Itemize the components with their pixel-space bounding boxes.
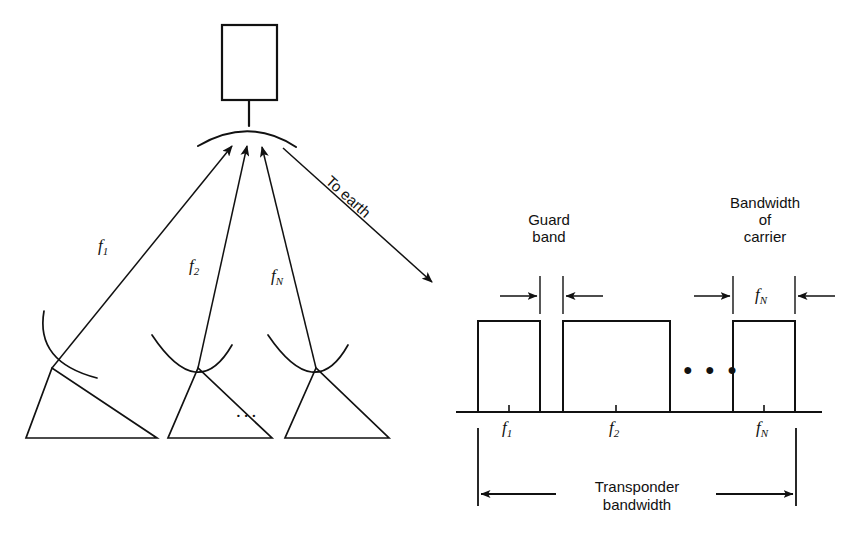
transponder-bandwidth-label-line2: bandwidth [567,496,707,513]
carrier-bandwidth-label-line2: of [705,211,825,228]
uplink-label-f2: f2 [189,256,199,277]
transponder-bandwidth-label-line1: Transponder [567,478,707,495]
uplink-arrow-fN [262,147,316,368]
earth-station-N-dish [268,335,348,372]
earth-station-1-mount [26,368,157,438]
spectrum-axis-label-fN: fN [756,418,768,439]
guard-band-label-line2: band [499,228,599,245]
carrier-block-fN [733,321,795,412]
uplink-label-fN: fN [271,266,283,287]
ground-stations-ellipsis: ... [236,400,259,422]
uplink-label-f1: f1 [98,236,108,257]
diagram-vector-layer [0,0,854,548]
spectrum-axis-label-f2: f2 [609,418,619,439]
earth-station-2-dish [152,335,232,372]
carrier-block-f2 [563,321,670,412]
satellite-antenna-dish [198,131,296,147]
earth-station-1-dish [43,311,97,378]
carrier-block-f1 [478,321,540,412]
earth-station-N-mount [285,368,389,438]
satellite-body [222,25,277,100]
carrier-bandwidth-label-line1: Bandwidth [705,194,825,211]
spectrum-axis-label-f1: f1 [502,418,512,439]
guard-band-label-line1: Guard [499,211,599,228]
figure-canvas: f1 f2 fN To earth ... Guard band Bandwid… [0,0,854,548]
spectrum-blocks-ellipsis: ● ● ● [683,361,741,378]
carrier-bandwidth-value-fN: fN [755,285,767,306]
carrier-bandwidth-label-line3: carrier [705,228,825,245]
